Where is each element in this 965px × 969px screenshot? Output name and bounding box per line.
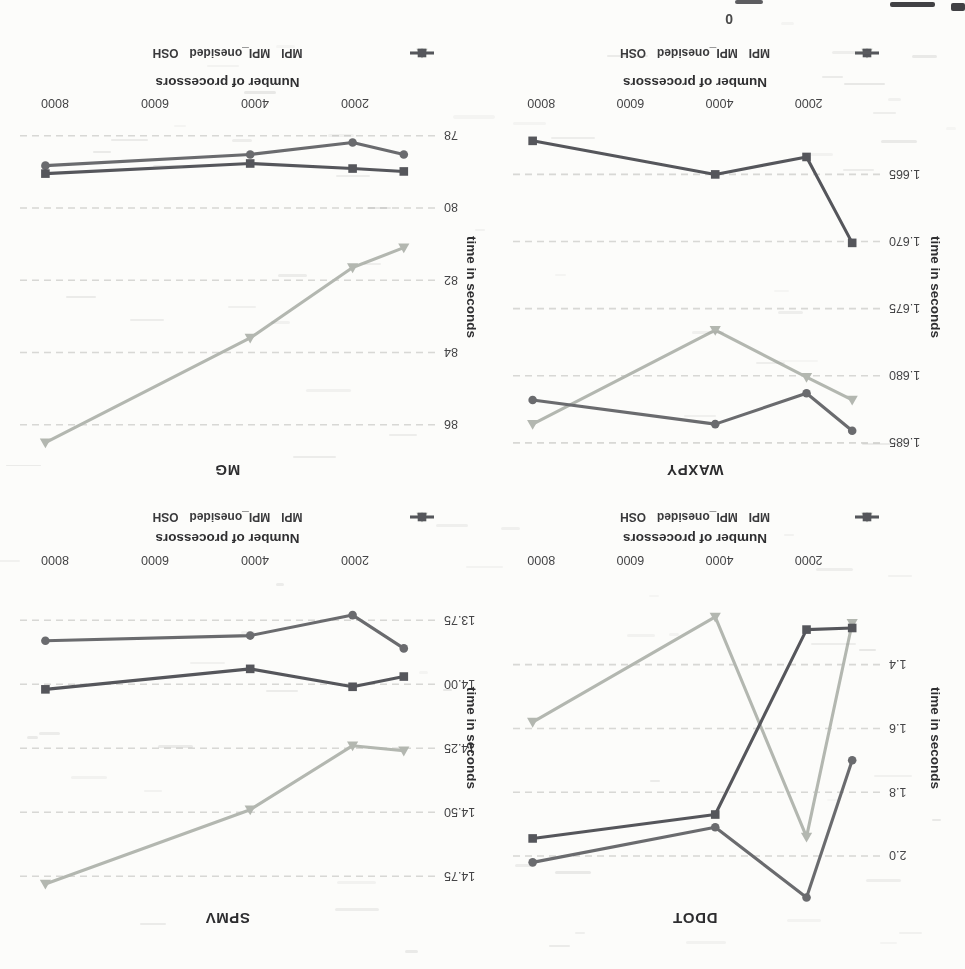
- chart-mg: 78808284862000400060008000 MG time in se…: [0, 0, 480, 479]
- square-marker-icon: [802, 625, 811, 634]
- series-line-MPI: [45, 143, 403, 166]
- x-tick-label: 8000: [527, 96, 555, 110]
- y-tick-label: 14.75: [444, 869, 475, 883]
- print-fragment-bar: [735, 0, 763, 4]
- y-tick-label: 2.0: [889, 848, 906, 862]
- legend-label: MPI_onesided: [190, 510, 271, 524]
- chart-waxpy: 1.6651.6701.6751.6801.685200040006000800…: [480, 0, 965, 479]
- x-tick-label: 4000: [241, 553, 269, 567]
- legend: MPIMPI_onesidedOSH: [20, 46, 435, 60]
- ddot-plot-svg: 1.41.61.82.02000400060008000: [480, 479, 965, 939]
- legend-item-OSH: OSH: [152, 46, 178, 60]
- y-tick-label: 1.665: [889, 167, 920, 181]
- y-tick-label: 13.75: [444, 613, 475, 627]
- circle-marker-icon: [246, 150, 255, 159]
- legend-square-glyph-icon: [863, 513, 872, 522]
- legend-item-MPI: MPI: [749, 510, 770, 524]
- x-tick-label: 4000: [706, 553, 734, 567]
- y-tick-label: 78: [444, 128, 458, 142]
- y-tick-label: 14.50: [444, 805, 475, 819]
- legend-item-MPI_onesided: MPI_onesided: [657, 510, 738, 524]
- legend-label: MPI: [749, 46, 770, 60]
- series-line-MPI_onesided: [45, 248, 403, 443]
- circle-marker-icon: [528, 858, 537, 867]
- scan-noise: [686, 941, 726, 943]
- legend-square-marker-icon: [409, 46, 435, 60]
- legend-square-glyph-icon: [418, 49, 427, 58]
- waxpy-plot-svg: 1.6651.6701.6751.6801.685200040006000800…: [480, 0, 965, 479]
- square-marker-icon: [400, 672, 409, 681]
- circle-marker-icon: [41, 636, 50, 645]
- square-marker-icon: [711, 170, 720, 179]
- circle-marker-icon: [711, 420, 720, 429]
- y-axis-label: time in seconds: [464, 236, 479, 338]
- x-tick-label: 2000: [341, 553, 369, 567]
- square-marker-icon: [848, 239, 857, 248]
- legend-item-MPI: MPI: [749, 46, 770, 60]
- square-marker-icon: [41, 169, 50, 178]
- circle-marker-icon: [711, 823, 720, 832]
- chart-title-mg: MG: [20, 462, 435, 479]
- x-axis-label: Number of processors: [20, 531, 435, 546]
- x-tick-label: 6000: [141, 553, 169, 567]
- triangle-marker-icon: [801, 833, 812, 843]
- y-tick-label: 1.6: [889, 721, 906, 735]
- legend-square-marker-icon: [854, 46, 880, 60]
- y-tick-label: 86: [444, 417, 458, 431]
- square-marker-icon: [400, 167, 409, 176]
- x-tick-label: 8000: [41, 96, 69, 110]
- x-tick-label: 2000: [795, 96, 823, 110]
- legend-label: MPI: [281, 46, 302, 60]
- series-line-MPI_onesided: [45, 746, 403, 884]
- circle-marker-icon: [802, 893, 811, 902]
- circle-marker-icon: [848, 427, 857, 436]
- y-tick-label: 1.8: [889, 785, 906, 799]
- x-tick-label: 8000: [527, 553, 555, 567]
- square-marker-icon: [528, 834, 537, 843]
- circle-marker-icon: [528, 396, 537, 405]
- square-marker-icon: [711, 810, 720, 819]
- scan-noise: [405, 950, 418, 953]
- y-tick-label: 1.675: [889, 301, 920, 315]
- print-fragment-bar: [951, 3, 965, 11]
- circle-marker-icon: [848, 756, 857, 765]
- circle-marker-icon: [802, 389, 811, 398]
- triangle-marker-icon: [40, 880, 51, 890]
- legend-square-glyph-icon: [418, 513, 427, 522]
- legend-square-marker-icon: [854, 510, 880, 524]
- legend-label: OSH: [620, 46, 646, 60]
- legend-square-marker-icon: [409, 510, 435, 524]
- spmv-plot-svg: 13.7514.0014.2514.5014.75200040006000800…: [0, 479, 480, 939]
- square-marker-icon: [41, 685, 50, 694]
- rotated-page: 1.41.61.82.02000400060008000 DDOT time i…: [0, 0, 965, 969]
- y-axis-label: time in seconds: [464, 687, 479, 789]
- y-tick-label: 80: [444, 200, 458, 214]
- legend-label: MPI: [749, 510, 770, 524]
- x-axis-label: Number of processors: [510, 531, 880, 546]
- y-tick-label: 1.680: [889, 368, 920, 382]
- x-axis-label: Number of processors: [20, 75, 435, 90]
- circle-marker-icon: [348, 611, 357, 620]
- x-tick-label: 6000: [616, 553, 644, 567]
- legend-item-OSH: OSH: [152, 510, 178, 524]
- x-tick-label: 6000: [616, 96, 644, 110]
- legend-item-MPI_onesided: MPI_onesided: [657, 46, 738, 60]
- x-tick-label: 6000: [141, 96, 169, 110]
- chart-title-spmv: SPMV: [20, 910, 435, 927]
- scan-noise: [549, 945, 570, 948]
- y-axis-label: time in seconds: [928, 687, 943, 789]
- y-axis-label: time in seconds: [928, 236, 943, 338]
- circle-marker-icon: [400, 644, 409, 653]
- triangle-marker-icon: [527, 718, 538, 728]
- y-tick-label: 82: [444, 273, 458, 287]
- circle-marker-icon: [400, 150, 409, 159]
- legend-square-glyph-icon: [863, 49, 872, 58]
- square-marker-icon: [246, 159, 255, 168]
- legend-label: MPI_onesided: [657, 510, 738, 524]
- square-marker-icon: [528, 137, 537, 146]
- x-tick-label: 8000: [41, 553, 69, 567]
- chart-spmv: 13.7514.0014.2514.5014.75200040006000800…: [0, 479, 480, 939]
- y-tick-label: 1.685: [889, 435, 920, 449]
- y-tick-label: 1.670: [889, 234, 920, 248]
- square-marker-icon: [348, 682, 357, 691]
